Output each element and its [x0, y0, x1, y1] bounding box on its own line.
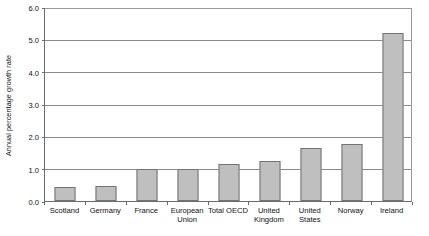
- bar[interactable]: [55, 187, 76, 201]
- bar-slot: [290, 8, 331, 201]
- y-axis-tick-label: 6.0: [28, 4, 39, 13]
- x-axis-tick-mark: [330, 202, 331, 205]
- y-axis-tick-label: 3.0: [28, 101, 39, 110]
- x-axis-tick-mark: [44, 202, 45, 205]
- bar-slot: [209, 8, 250, 201]
- x-axis-tick-mark: [126, 202, 127, 205]
- bar[interactable]: [178, 169, 199, 201]
- bar-slot: [249, 8, 290, 201]
- y-axis-tick-label: 5.0: [28, 36, 39, 45]
- plot-inner: [45, 8, 411, 201]
- x-axis-tick-mark: [412, 202, 413, 205]
- bar-slot: [86, 8, 127, 201]
- x-axis-tick-mark: [167, 202, 168, 205]
- x-axis-tick-mark: [371, 202, 372, 205]
- y-axis-title: Annual percentage growth rate: [0, 0, 18, 210]
- bar[interactable]: [218, 164, 239, 201]
- x-axis-tick-mark: [289, 202, 290, 205]
- bar-slot: [45, 8, 86, 201]
- bar-chart: Annual percentage growth rate 0.01.02.03…: [0, 0, 429, 236]
- bar[interactable]: [259, 161, 280, 201]
- bar-slot: [168, 8, 209, 201]
- y-axis-tick-label: 4.0: [28, 68, 39, 77]
- x-axis-tick-labels: ScotlandGermanyFranceEuropeanUnionTotal …: [44, 206, 412, 234]
- bar[interactable]: [341, 144, 362, 201]
- x-axis-tick-label: Ireland: [365, 206, 418, 215]
- bar-slot: [127, 8, 168, 201]
- y-axis-tick-label: 1.0: [28, 165, 39, 174]
- y-axis-tick-labels: 0.01.02.03.04.05.06.0: [18, 8, 42, 202]
- bar[interactable]: [382, 33, 403, 201]
- plot-area: [44, 8, 412, 202]
- x-axis-tick-mark: [248, 202, 249, 205]
- bar[interactable]: [96, 186, 117, 201]
- y-axis-title-text: Annual percentage growth rate: [5, 54, 14, 155]
- bar-slot: [372, 8, 413, 201]
- y-axis-tick-label: 2.0: [28, 133, 39, 142]
- x-axis-tick-mark: [85, 202, 86, 205]
- bar[interactable]: [137, 169, 158, 201]
- bar-slot: [331, 8, 372, 201]
- bars: [45, 8, 411, 201]
- bar[interactable]: [300, 148, 321, 201]
- x-axis-tick-mark: [208, 202, 209, 205]
